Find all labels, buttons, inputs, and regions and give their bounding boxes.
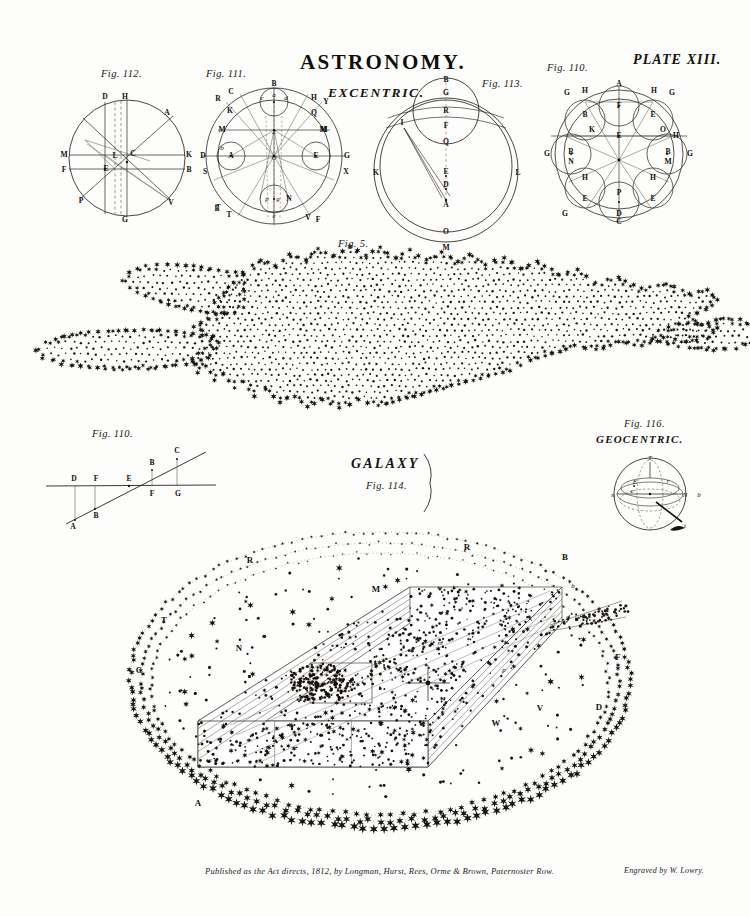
- point-label: N: [286, 195, 291, 203]
- point-label: E: [633, 479, 637, 486]
- figure-114: B R R M T N C A F D V W a b d m p: [110, 505, 650, 850]
- point-label: X: [343, 168, 348, 176]
- point-label: H: [650, 174, 656, 182]
- point-label: F: [444, 122, 449, 130]
- point-label: F: [615, 653, 620, 662]
- point-label: e: [630, 488, 633, 495]
- point-label: m: [437, 640, 442, 647]
- point-label: N: [683, 492, 688, 499]
- point-label: c: [260, 95, 263, 102]
- figure-114-caption: Fig. 114.: [366, 480, 407, 491]
- point-label: M: [664, 158, 671, 166]
- point-label: K: [589, 126, 595, 134]
- point-label: F: [150, 490, 155, 498]
- point-label: Y: [323, 98, 328, 106]
- point-label: T: [226, 211, 231, 219]
- figure-5-caption: Fig. 5.: [338, 238, 369, 249]
- point-label: B: [93, 512, 98, 520]
- point-label: H: [311, 94, 317, 102]
- point-label: N: [568, 158, 573, 166]
- point-label: Q: [443, 138, 449, 146]
- figure-113-caption: Fig. 113.: [482, 78, 523, 89]
- point-label: H: [122, 93, 128, 101]
- point-label: S: [203, 168, 207, 176]
- point-label: p: [265, 196, 269, 203]
- point-label: d: [284, 95, 288, 102]
- point-label: B: [149, 459, 154, 467]
- point-label: B: [443, 76, 448, 84]
- point-label: E: [443, 168, 448, 176]
- point-label: R: [215, 95, 220, 103]
- point-label: E: [650, 111, 655, 119]
- engraver-credit: Engraved by W. Lowry.: [624, 866, 704, 875]
- point-label: M: [218, 126, 225, 134]
- point-label: V: [537, 704, 543, 713]
- point-label: t: [684, 523, 686, 530]
- point-label: e: [272, 213, 275, 220]
- point-label: E: [650, 195, 655, 203]
- point-label: n: [611, 492, 615, 499]
- point-label: G: [562, 210, 568, 218]
- point-label: M: [320, 126, 327, 134]
- figure-5-stipple: [18, 230, 733, 430]
- point-label: A: [228, 152, 233, 160]
- point-label: E: [103, 165, 108, 173]
- point-label: A: [195, 799, 201, 808]
- point-label: A: [616, 80, 621, 88]
- figure-111-caption: Fig. 111.: [206, 68, 246, 79]
- point-label: G: [544, 150, 550, 158]
- figure-112-caption: Fig. 112.: [101, 68, 142, 79]
- point-label: b: [220, 145, 224, 152]
- point-label: L: [112, 152, 117, 160]
- point-label: H: [582, 87, 588, 95]
- point-label: W: [492, 719, 501, 728]
- point-label: A: [164, 109, 169, 117]
- point-label: A: [70, 523, 75, 531]
- point-label: H: [673, 132, 679, 140]
- point-label: T: [648, 455, 652, 462]
- point-label: R: [247, 556, 253, 565]
- point-label: G: [669, 89, 675, 97]
- point-label: F: [62, 166, 67, 174]
- point-label: D: [443, 181, 448, 189]
- point-label: Z: [272, 129, 276, 136]
- point-label: K: [373, 169, 379, 177]
- point-label: R: [443, 107, 448, 115]
- point-label: E: [582, 195, 587, 203]
- imprint-line: Published as the Act directs, 1812, by L…: [205, 866, 554, 876]
- point-label: O: [660, 126, 666, 134]
- point-label: R: [568, 148, 573, 156]
- section-heading-geocentric: GEOCENTRIC.: [596, 433, 683, 445]
- point-label: V: [168, 199, 173, 207]
- point-label: K: [227, 107, 233, 115]
- point-label: M: [372, 585, 380, 594]
- point-label: G: [175, 490, 181, 498]
- figure-110-top: Fig. 110.: [535, 62, 705, 232]
- figure-110-bottom-caption: Fig. 110.: [92, 428, 133, 439]
- point-label: V: [305, 214, 310, 222]
- point-label: a: [208, 757, 212, 764]
- point-label: r: [667, 478, 670, 485]
- point-label: D: [200, 152, 205, 160]
- point-label: d: [566, 614, 570, 621]
- point-label: F: [94, 475, 99, 483]
- point-label: B: [271, 80, 276, 88]
- figure-112-drawing: [55, 68, 205, 228]
- point-label: F: [316, 216, 321, 224]
- point-label: N: [236, 644, 242, 653]
- point-label: B: [665, 148, 670, 156]
- point-label: P: [79, 197, 84, 205]
- point-label: D: [71, 475, 76, 483]
- point-label: I: [401, 119, 404, 127]
- point-label: F: [617, 102, 622, 110]
- point-label: R: [464, 543, 470, 552]
- point-label: C: [130, 150, 135, 158]
- point-label: b: [697, 492, 701, 499]
- point-label: G: [564, 89, 570, 97]
- figure-110-top-caption: Fig. 110.: [547, 62, 588, 73]
- point-label: L: [515, 169, 520, 177]
- point-label: E: [126, 475, 131, 483]
- point-label: B: [186, 166, 191, 174]
- point-label: E: [313, 152, 318, 160]
- point-label: P: [617, 189, 622, 197]
